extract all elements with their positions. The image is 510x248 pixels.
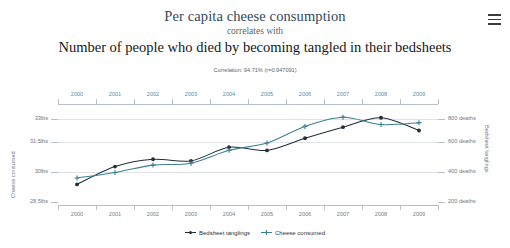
right-axis-tick	[438, 172, 445, 173]
chart-legend: Bedsheet tanglings Cheese consumed	[0, 229, 510, 236]
chart-plot-area	[58, 96, 438, 206]
legend-item-bedsheet-tanglings[interactable]: Bedsheet tanglings	[185, 229, 250, 236]
menu-line	[488, 23, 501, 25]
bottom-axis-tick	[438, 205, 439, 210]
right-axis-tick-label: 800 deaths	[448, 115, 492, 122]
legend-label: Cheese consumed	[275, 230, 325, 236]
left-axis-tick	[51, 119, 58, 120]
series-line-bedsheet-tanglings	[77, 118, 419, 185]
series-point-dot-icon[interactable]	[341, 125, 345, 129]
series-line-cheese-consumed	[77, 117, 419, 178]
left-axis-tick-label: 33lbs	[12, 115, 48, 122]
series-point-plus-icon[interactable]	[113, 170, 118, 175]
series-point-plus-icon[interactable]	[341, 115, 346, 120]
chart-page: Per capita cheese consumption correlates…	[0, 0, 510, 248]
series-point-plus-icon[interactable]	[303, 124, 308, 129]
menu-line	[488, 19, 501, 21]
top-axis-tick	[438, 99, 439, 104]
menu-line	[488, 14, 501, 16]
series-point-plus-icon[interactable]	[227, 148, 232, 153]
series-svg	[58, 96, 438, 206]
left-axis-title: Cheese consumed	[10, 151, 16, 198]
left-axis-tick	[51, 202, 58, 203]
bottom-axis-year-label: 2007	[326, 211, 360, 218]
series-point-dot-icon[interactable]	[303, 136, 307, 140]
right-axis-title: Bedsheet tanglings	[484, 125, 490, 173]
left-axis-tick-label: 28.5lbs	[12, 198, 48, 205]
series-point-dot-icon[interactable]	[379, 116, 383, 120]
series-point-dot-icon[interactable]	[151, 157, 155, 161]
left-axis-tick	[51, 172, 58, 173]
legend-item-cheese-consumed[interactable]: Cheese consumed	[261, 229, 325, 236]
left-axis-tick	[51, 142, 58, 143]
series-point-plus-icon[interactable]	[379, 122, 384, 127]
bottom-axis-year-label: 2002	[136, 211, 170, 218]
bottom-axis-year-label: 2008	[364, 211, 398, 218]
hamburger-menu-icon[interactable]	[488, 14, 501, 25]
chart-title-secondary: Number of people who died by becoming ta…	[0, 39, 510, 55]
legend-marker-circle-icon	[185, 229, 196, 236]
legend-label: Bedsheet tanglings	[199, 230, 250, 236]
right-axis-tick	[438, 119, 445, 120]
right-axis-tick	[438, 202, 445, 203]
bottom-axis-year-label: 2005	[250, 211, 284, 218]
correlation-label: Correlation: 94.71% (r=0.947091)	[0, 66, 510, 74]
left-axis-tick-label: 30lbs	[12, 168, 48, 175]
bottom-axis-year-label: 2003	[174, 211, 208, 218]
series-point-plus-icon[interactable]	[151, 163, 156, 168]
right-axis-tick-label: 200 deaths	[448, 198, 492, 205]
series-point-dot-icon[interactable]	[113, 165, 117, 169]
chart-title-primary: Per capita cheese consumption	[0, 9, 510, 24]
bottom-axis-year-label: 2000	[60, 211, 94, 218]
series-point-dot-icon[interactable]	[265, 149, 269, 153]
series-point-plus-icon[interactable]	[417, 120, 422, 125]
legend-marker-plus-icon	[261, 229, 272, 236]
bottom-axis-year-label: 2009	[402, 211, 436, 218]
series-point-plus-icon[interactable]	[265, 140, 270, 145]
series-point-dot-icon[interactable]	[417, 129, 421, 133]
bottom-axis-year-label: 2004	[212, 211, 246, 218]
series-point-plus-icon[interactable]	[75, 176, 80, 181]
plus-glyph-icon	[261, 229, 272, 236]
left-axis-tick-label: 31.5lbs	[12, 138, 48, 145]
bottom-axis-year-label: 2001	[98, 211, 132, 218]
right-axis-tick	[438, 142, 445, 143]
series-point-dot-icon[interactable]	[75, 183, 79, 187]
bottom-axis-year-label: 2006	[288, 211, 322, 218]
chart-title-connector: correlates with	[0, 26, 510, 37]
